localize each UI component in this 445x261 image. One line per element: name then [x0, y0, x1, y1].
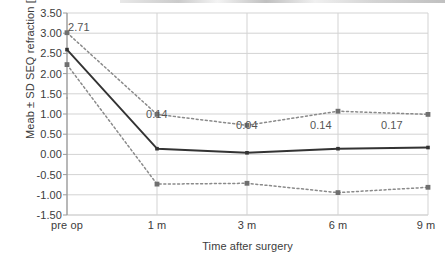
data-point-label: 0.17: [381, 119, 403, 131]
x-tick-label: 9 m: [417, 219, 436, 231]
data-point-label: 2.71: [68, 21, 90, 33]
y-axis-line: [63, 13, 67, 215]
x-tick-label: pre op: [51, 219, 83, 231]
data-point-label: 0.14: [310, 119, 332, 131]
series-mean-markers: [65, 48, 430, 155]
x-tick-label: 6 m: [329, 219, 348, 231]
chart-figure: Meab ± SD SEQ refraction [D] 3.50 3.00 2…: [0, 0, 445, 261]
x-axis-title: Time after surgery: [67, 240, 428, 252]
x-tick-label: 3 m: [238, 219, 257, 231]
data-point-label: 0.14: [146, 108, 168, 120]
data-point-label: 0.04: [236, 119, 258, 131]
x-tick-label: 1 m: [148, 219, 167, 231]
